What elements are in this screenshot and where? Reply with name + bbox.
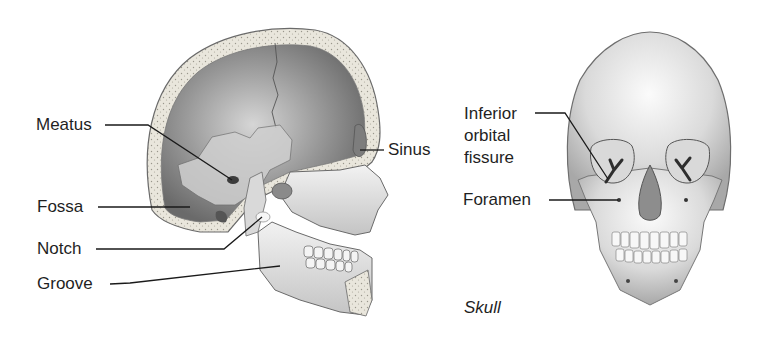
left-mental-foramen: [626, 279, 630, 283]
skull-diagram: [0, 0, 770, 350]
facial-bones: [280, 165, 388, 235]
label-sinus: Sinus: [388, 140, 431, 160]
figure-caption-skull: Skull: [464, 298, 501, 318]
right-mental-foramen: [674, 279, 678, 283]
anterior-skull-illustration: [567, 32, 730, 305]
label-inferior-orbital-fissure: Inferior orbital fissure: [464, 103, 554, 169]
label-notch: Notch: [37, 239, 81, 259]
label-fossa: Fossa: [37, 197, 83, 217]
label-meatus: Meatus: [36, 115, 92, 135]
label-groove: Groove: [37, 274, 93, 294]
leader-line-groove: [110, 266, 280, 284]
right-infraorbital-foramen: [684, 198, 688, 202]
sphenoid-sinus: [272, 183, 292, 199]
frontal-sinus: [353, 124, 366, 156]
lateral-skull-illustration: [147, 28, 388, 316]
label-foramen: Foramen: [463, 190, 531, 210]
